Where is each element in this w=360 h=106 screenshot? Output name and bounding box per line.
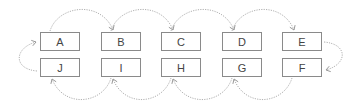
node-label: E [298, 36, 305, 48]
edge-h-i-arrowhead [112, 79, 117, 84]
node-label: H [177, 62, 185, 74]
edge-c-d [171, 9, 234, 31]
node-label: J [57, 62, 63, 74]
node-g: G [222, 58, 262, 77]
node-c: C [161, 32, 201, 51]
node-label: D [238, 36, 246, 48]
node-label: F [299, 62, 306, 74]
edge-f-g [234, 78, 292, 100]
node-b: B [101, 32, 141, 51]
node-label: I [119, 62, 122, 74]
cycle-diagram: A B C D E F G H I J [0, 0, 360, 106]
node-d: D [222, 32, 262, 51]
edge-e-f [324, 42, 342, 70]
edge-d-e [232, 9, 294, 31]
edges-layer [0, 0, 360, 106]
node-label: A [56, 36, 63, 48]
node-e: E [282, 32, 322, 51]
edge-a-b [50, 9, 113, 31]
node-f: F [282, 58, 322, 77]
node-label: G [238, 62, 247, 74]
node-h: H [161, 58, 201, 77]
edge-f-g-arrowhead [233, 79, 238, 84]
edge-j-a [19, 42, 37, 71]
node-label: B [117, 36, 124, 48]
edge-i-j [52, 78, 111, 100]
edge-g-h [173, 78, 232, 100]
node-label: C [177, 36, 185, 48]
node-i: I [101, 58, 141, 77]
node-j: J [40, 58, 80, 77]
edge-h-i [113, 78, 171, 100]
node-a: A [40, 32, 80, 51]
edge-b-c [111, 9, 173, 31]
